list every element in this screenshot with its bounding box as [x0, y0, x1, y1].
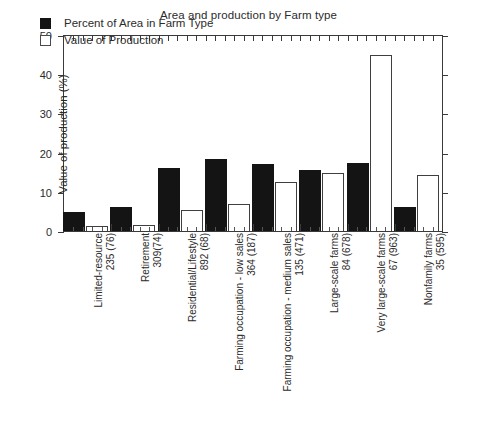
bar-area-4	[252, 164, 274, 231]
x-axis-label-line1-1: Retirement	[140, 233, 152, 282]
bar-production-2	[181, 210, 203, 231]
x-tick-minor-3-3	[234, 227, 235, 231]
x-tick-major-5	[348, 224, 349, 231]
x-tick-minor-4-2	[272, 227, 273, 231]
legend-item-area: Percent of Area in Farm Type	[40, 15, 213, 31]
x-tick-major-0	[111, 224, 112, 231]
x-tick-minor-2-4	[196, 227, 197, 231]
x-tick-minor-4-4	[291, 227, 292, 231]
x-tick-minor-5-3	[329, 227, 330, 231]
x-axis-label-line2-2: 892 (68)	[199, 233, 211, 322]
x-axis-label-line2-6: 67 (963)	[388, 233, 400, 332]
x-tick-minor-5-2	[319, 227, 320, 231]
y-tick-label-0: 0	[12, 226, 52, 238]
x-tick-minor-6-1	[357, 227, 358, 231]
y2-tick-30	[442, 114, 448, 115]
x-tick-major-7	[442, 224, 443, 231]
x-tick-major-4	[300, 224, 301, 231]
x-tick-minor-0-1	[73, 227, 74, 231]
x-tick-minor-1-1	[121, 227, 122, 231]
bar-production-1	[133, 225, 155, 231]
y-tick-label-20: 20	[12, 148, 52, 160]
x-tick-minor-1-2	[130, 227, 131, 231]
x-axis-label-line1-7: Nonfamily farms	[423, 233, 435, 305]
x-axis-label-line1-3: Farming occupation - low sales	[234, 233, 246, 371]
x-tick-minor-6-3	[376, 227, 377, 231]
x-axis-label-line2-5: 84 (678)	[341, 233, 353, 313]
bar-production-0	[86, 226, 108, 231]
x-axis-label-line2-7: 35 (595)	[435, 233, 447, 305]
x-axis-label-0: Limited-resource235 (76)	[93, 233, 117, 307]
x-tick-minor-0-2	[83, 227, 84, 231]
bar-area-2	[158, 168, 180, 231]
bar-production-3	[228, 204, 250, 231]
x-tick-minor-1-3	[140, 227, 141, 231]
plot-area: 50 40 30 20 10 0 Value of production (%)…	[63, 35, 443, 232]
x-axis-label-line1-0: Limited-resource	[93, 233, 105, 307]
bar-area-5	[299, 170, 321, 231]
x-axis-label-1: Retirement309(74)	[140, 233, 164, 282]
legend-item-production: Value of Production	[40, 32, 213, 48]
x-tick-minor-5-1	[310, 227, 311, 231]
x-tick-minor-7-4	[433, 227, 434, 231]
x-tick-minor-4-3	[281, 227, 282, 231]
x-axis-label-line2-4: 135 (471)	[294, 233, 306, 391]
x-axis-label-5: Large-scale farms84 (678)	[329, 233, 353, 313]
y-tick-label-40: 40	[12, 69, 52, 81]
x-tick-minor-2-1	[168, 227, 169, 231]
x-tick-minor-6-4	[385, 227, 386, 231]
x-tick-minor-3-1	[215, 227, 216, 231]
y-axis-title: Value of production (%)	[57, 59, 69, 209]
bar-area-6	[347, 163, 369, 231]
x-axis-label-line1-2: Residential/Lifestyle	[187, 233, 199, 322]
x-tick-minor-6-2	[366, 227, 367, 231]
x-tick-minor-2-2	[177, 227, 178, 231]
bar-production-5	[322, 173, 344, 231]
x-tick-minor-3-2	[225, 227, 226, 231]
bar-production-4	[275, 182, 297, 231]
bar-production-6	[370, 55, 392, 231]
x-axis-label-line2-3: 364 (187)	[246, 233, 258, 371]
y-tick-label-30: 30	[12, 108, 52, 120]
x-tick-minor-4-1	[262, 227, 263, 231]
x-tick-minor-5-4	[338, 227, 339, 231]
x-axis-label-3: Farming occupation - low sales364 (187)	[234, 233, 258, 371]
x-tick-minor-3-4	[244, 227, 245, 231]
bars-layer	[64, 36, 442, 231]
chart-legend: Percent of Area in Farm Type Value of Pr…	[40, 15, 213, 49]
x-tick-minor-2-3	[187, 227, 188, 231]
x-tick-minor-1-4	[149, 227, 150, 231]
x-axis-label-6: Very large-scale farms67 (963)	[376, 233, 400, 332]
bar-area-3	[205, 159, 227, 231]
x-axis-label-line2-0: 235 (76)	[105, 233, 117, 307]
x-axis-category-labels: Limited-resource235 (76)Retirement309(74…	[63, 233, 443, 433]
legend-label-production: Value of Production	[64, 34, 164, 46]
x-axis-label-line2-1: 309(74)	[152, 233, 164, 282]
open-square-icon	[40, 35, 51, 46]
y2-tick-20	[442, 154, 448, 155]
x-axis-label-line1-4: Farming occupation - medium sales	[282, 233, 294, 391]
x-axis-label-7: Nonfamily farms35 (595)	[423, 233, 447, 305]
x-tick-minor-0-3	[92, 227, 93, 231]
legend-label-area: Percent of Area in Farm Type	[64, 17, 213, 29]
x-tick-major-3	[253, 224, 254, 231]
x-tick-minor-7-3	[423, 227, 424, 231]
x-axis-label-2: Residential/Lifestyle892 (68)	[187, 233, 211, 322]
chart-root: Area and production by Farm type 50 40 3…	[0, 0, 497, 439]
filled-square-icon	[40, 18, 51, 29]
x-tick-major-2	[206, 224, 207, 231]
x-tick-minor-0-4	[102, 227, 103, 231]
y-tick-label-10: 10	[12, 187, 52, 199]
y2-tick-10	[442, 193, 448, 194]
x-tick-major-6	[395, 224, 396, 231]
x-tick-minor-7-2	[414, 227, 415, 231]
x-axis-label-line1-5: Large-scale farms	[329, 233, 341, 313]
bar-production-7	[417, 175, 439, 231]
x-axis-label-4: Farming occupation - medium sales135 (47…	[282, 233, 306, 391]
x-axis-label-line1-6: Very large-scale farms	[376, 233, 388, 332]
x-tick-major-1	[159, 224, 160, 231]
x-tick-minor-7-1	[404, 227, 405, 231]
y2-tick-40	[442, 75, 448, 76]
y2-tick-50	[442, 36, 448, 37]
